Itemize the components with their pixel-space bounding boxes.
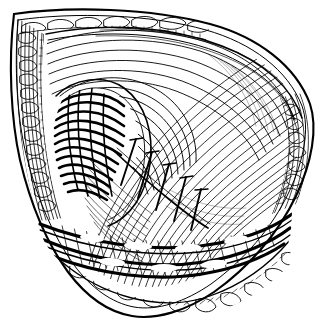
surgical-illustration-figure [0,0,323,329]
region-fat-top [14,6,210,44]
region-fat-bottom [56,232,296,324]
region-right-wall [268,90,318,218]
region-left-wall [10,14,66,226]
illustration-canvas [0,0,323,329]
